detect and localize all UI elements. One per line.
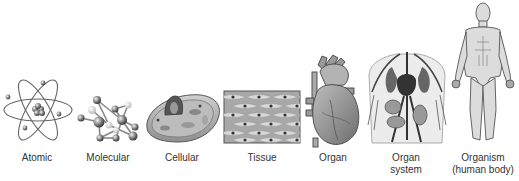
tissue-cell-nucleus [243, 104, 246, 107]
atom-icon [4, 75, 72, 145]
tissue-cell-nucleus [243, 138, 246, 141]
human-body-icon [452, 3, 514, 140]
tissue-cell-nucleus [257, 95, 260, 98]
tissue-cell-nucleus [283, 131, 286, 134]
heart-icon [306, 55, 359, 147]
tissue-cell-nucleus [269, 138, 272, 141]
label-atomic: Atomic [22, 152, 53, 164]
label-organ-system: Organ system [390, 152, 422, 176]
tissue-cell-nucleus [231, 131, 234, 134]
tissue-cell-nucleus [283, 113, 286, 116]
molecule-icon [78, 96, 139, 142]
label-molecular: Molecular [86, 152, 129, 164]
label-organism: Organism (human body) [452, 152, 514, 176]
tissue-cell-nucleus [269, 104, 272, 107]
tissue-cell-nucleus [309, 131, 312, 134]
tissue-cell-nucleus [269, 122, 272, 125]
tissue-cell-nucleus [231, 113, 234, 116]
label-organ: Organ [319, 152, 347, 164]
label-cellular: Cellular [165, 152, 199, 164]
tissue-cell-nucleus [283, 95, 286, 98]
label-organ-system-line2: system [390, 164, 422, 176]
tissue-cell-nucleus [257, 131, 260, 134]
label-tissue: Tissue [247, 152, 276, 164]
tissue-cell-nucleus [243, 122, 246, 125]
label-organ-system-line1: Organ [390, 152, 422, 164]
tissue-cell-nucleus [295, 122, 298, 125]
label-organism-line1: Organism [452, 152, 514, 164]
circulatory-system-icon [368, 52, 446, 143]
cell-icon [147, 95, 220, 142]
tissue-cell-nucleus [231, 95, 234, 98]
tissue-cell-nucleus [257, 113, 260, 116]
label-organism-line2: (human body) [452, 164, 514, 176]
tissue-cell-nucleus [295, 138, 298, 141]
tissue-cell-nucleus [295, 104, 298, 107]
